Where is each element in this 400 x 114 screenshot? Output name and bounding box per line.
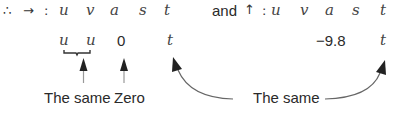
curved-arrow-icon xyxy=(325,60,386,99)
arrow-up-icon xyxy=(80,58,88,83)
brace-icon xyxy=(64,50,90,55)
arrow-up-icon xyxy=(120,58,128,83)
curved-arrow-icon xyxy=(172,57,233,99)
annotation-arrows xyxy=(0,0,400,114)
